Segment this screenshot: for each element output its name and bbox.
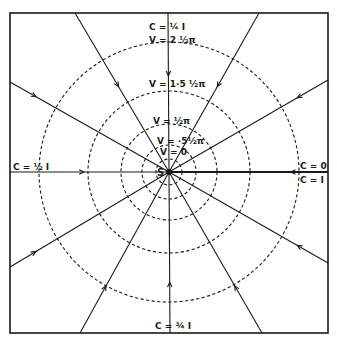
label-v-half: V = ½π <box>153 116 190 126</box>
streamline <box>169 172 262 333</box>
flow-net-diagram: C = ¼ I V = 2 ½π V = 1·5 ½π V = ½π V = ·… <box>0 0 337 342</box>
label-bottom-c: C = ¾ I <box>155 321 191 331</box>
label-top-c: C = ¼ I <box>149 22 185 32</box>
label-right-c0: C = 0 <box>300 161 327 171</box>
label-top-v: V = 2 ½π <box>149 35 196 45</box>
streamline <box>10 82 169 172</box>
label-left-c: C = ½ I <box>13 162 49 172</box>
streamline <box>80 172 169 333</box>
label-v-1-5: V = 1·5 ½π <box>149 79 205 89</box>
streamline <box>10 172 169 267</box>
source-point <box>166 169 172 175</box>
label-v-0: V = 0 <box>160 147 187 157</box>
label-v-0-5: V = ·5½π <box>157 136 204 146</box>
source-dot <box>166 169 172 175</box>
label-source: S <box>157 167 164 178</box>
streamline <box>169 172 170 333</box>
label-right-c1: C = I <box>300 175 324 185</box>
